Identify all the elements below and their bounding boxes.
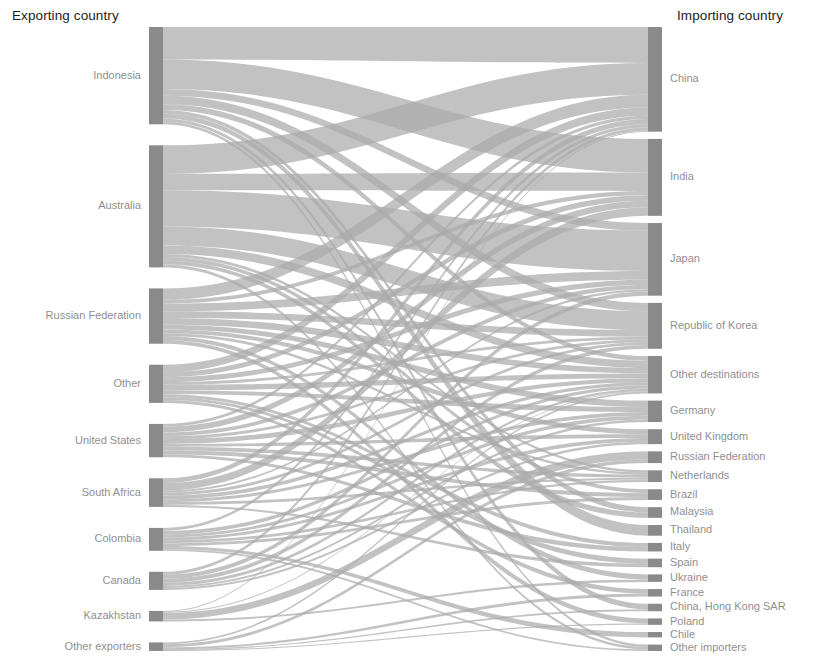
- node-label-france: France: [670, 587, 704, 598]
- sankey-link: [163, 172, 648, 190]
- sankey-node-target[interactable]: [648, 574, 662, 581]
- sankey-node-source[interactable]: [149, 611, 163, 621]
- node-label-australia: Australia: [98, 200, 141, 211]
- sankey-node-target[interactable]: [648, 429, 662, 444]
- node-label-india: India: [670, 171, 694, 182]
- sankey-node-source[interactable]: [149, 572, 163, 590]
- sankey-node-target[interactable]: [648, 589, 662, 596]
- node-label-kazakhstan: Kazakhstan: [84, 610, 141, 621]
- node-label-russian-federation: Russian Federation: [46, 310, 141, 321]
- node-label-canada: Canada: [102, 575, 141, 586]
- node-label-brazil: Brazil: [670, 489, 698, 500]
- sankey-node-target[interactable]: [648, 525, 662, 536]
- sankey-node-source[interactable]: [149, 528, 163, 551]
- sankey-node-source[interactable]: [149, 424, 163, 457]
- sankey-node-target[interactable]: [648, 645, 662, 651]
- sankey-node-target[interactable]: [648, 543, 662, 552]
- node-label-united-states: United States: [75, 435, 141, 446]
- sankey-node-source[interactable]: [149, 27, 163, 124]
- sankey-node-target[interactable]: [648, 356, 662, 393]
- sankey-node-target[interactable]: [648, 223, 662, 296]
- node-label-indonesia: Indonesia: [93, 70, 141, 81]
- node-label-republic-of-korea: Republic of Korea: [670, 320, 757, 331]
- node-label-thailand: Thailand: [670, 524, 712, 535]
- node-label-spain: Spain: [670, 557, 698, 568]
- sankey-node-target[interactable]: [648, 139, 662, 216]
- sankey-node-target[interactable]: [648, 507, 662, 518]
- node-label-other-importers: Other importers: [670, 642, 746, 653]
- sankey-diagram: Exporting country Importing country Indo…: [0, 0, 822, 660]
- node-label-russian-federation: Russian Federation: [670, 451, 765, 462]
- sankey-node-target[interactable]: [648, 632, 662, 637]
- node-label-ukraine: Ukraine: [670, 572, 708, 583]
- node-label-netherlands: Netherlands: [670, 470, 729, 481]
- node-label-colombia: Colombia: [95, 533, 141, 544]
- sankey-node-target[interactable]: [648, 604, 662, 611]
- exporting-country-title: Exporting country: [12, 8, 119, 23]
- importing-country-title: Importing country: [677, 8, 783, 23]
- node-label-other-exporters: Other exporters: [65, 641, 141, 652]
- sankey-node-source[interactable]: [149, 145, 163, 267]
- sankey-link: [163, 546, 648, 637]
- node-label-chile: Chile: [670, 629, 695, 640]
- node-label-south-africa: South Africa: [82, 487, 141, 498]
- sankey-node-target[interactable]: [648, 303, 662, 349]
- sankey-node-target[interactable]: [648, 470, 662, 482]
- node-label-malaysia: Malaysia: [670, 506, 713, 517]
- sankey-links: [163, 27, 648, 651]
- sankey-node-target[interactable]: [648, 401, 662, 422]
- sankey-node-source[interactable]: [149, 288, 163, 343]
- sankey-node-target[interactable]: [648, 559, 662, 568]
- sankey-node-target[interactable]: [648, 489, 662, 500]
- node-label-united-kingdom: United Kingdom: [670, 431, 748, 442]
- node-label-poland: Poland: [670, 616, 704, 627]
- node-label-japan: Japan: [670, 253, 700, 264]
- sankey-node-source[interactable]: [149, 478, 163, 507]
- sankey-link: [163, 27, 648, 63]
- sankey-node-source[interactable]: [149, 642, 163, 651]
- node-label-other-destinations: Other destinations: [670, 369, 759, 380]
- node-label-china-hong-kong-sar: China, Hong Kong SAR: [670, 601, 786, 612]
- node-label-china: China: [670, 73, 699, 84]
- sankey-node-target[interactable]: [648, 618, 662, 624]
- sankey-node-target[interactable]: [648, 451, 662, 463]
- node-label-other: Other: [113, 378, 141, 389]
- node-label-germany: Germany: [670, 405, 715, 416]
- node-label-italy: Italy: [670, 541, 690, 552]
- sankey-node-source[interactable]: [149, 365, 163, 403]
- sankey-node-target[interactable]: [648, 27, 662, 132]
